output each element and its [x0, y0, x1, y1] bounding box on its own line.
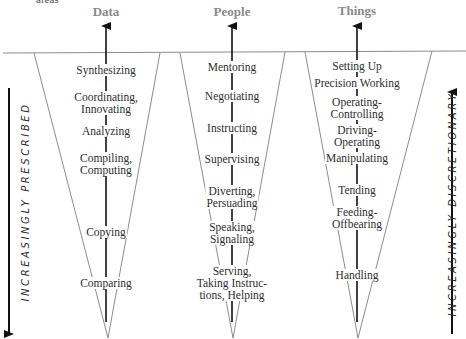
- people-item: Speaking,Signaling: [208, 221, 256, 245]
- data-item: Copying: [85, 226, 127, 238]
- heading-people: People: [214, 4, 251, 20]
- things-item: Manipulating: [325, 152, 389, 164]
- people-item: Negotiating: [204, 90, 260, 102]
- things-item: Tending: [337, 184, 377, 196]
- things-item: Driving-Operating: [333, 124, 381, 148]
- cut-off-text: areas: [36, 0, 59, 5]
- things-item: Operating-Controlling: [329, 96, 384, 120]
- data-item: Synthesizing: [75, 64, 136, 76]
- things-item: Handling: [335, 269, 380, 281]
- people-item: Mentoring: [207, 61, 258, 73]
- people-item: Serving,Taking Instruc-tions, Helping: [196, 265, 268, 301]
- side-label-discretionary: INCREASINGLY DISCRETIONARY: [447, 91, 458, 316]
- heading-things: Things: [338, 3, 376, 19]
- people-item: Instructing: [206, 122, 258, 134]
- people-item: Supervising: [204, 153, 261, 165]
- data-item: Comparing: [79, 277, 133, 289]
- side-label-prescribed: INCREASINGLY PRESCRIBED: [20, 102, 31, 301]
- baseline-rule: [3, 51, 466, 53]
- data-item: Coordinating,Innovating: [73, 91, 139, 115]
- things-item: Precision Working: [313, 77, 400, 89]
- people-item: Diverting,Persuading: [205, 185, 258, 209]
- things-item: Feeding-Offbearing: [331, 206, 383, 230]
- heading-data: Data: [93, 4, 120, 20]
- data-item: Compiling,Computing: [79, 152, 133, 176]
- data-item: Analyzing: [81, 125, 131, 137]
- things-item: Setting Up: [331, 60, 383, 72]
